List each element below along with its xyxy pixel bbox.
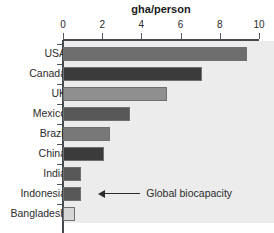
bar (63, 87, 167, 101)
bar-row: Brazil (0, 124, 274, 144)
y-tick-mark (57, 104, 62, 105)
bar (63, 107, 130, 121)
bar-row: China (0, 144, 274, 164)
category-label: China (39, 147, 66, 159)
bar (63, 167, 81, 181)
x-tick-label: 8 (217, 19, 223, 30)
x-tick-label: 4 (139, 19, 145, 30)
y-tick-mark (57, 124, 62, 125)
x-tick-mark (259, 33, 260, 39)
y-tick-mark (57, 204, 62, 205)
y-tick-mark (57, 184, 62, 185)
bar (63, 127, 110, 141)
bar (63, 207, 75, 221)
bar (63, 67, 202, 81)
bar (63, 47, 247, 61)
y-tick-mark (57, 144, 62, 145)
bar-row: UK (0, 84, 274, 104)
category-label: Mexico (33, 107, 66, 119)
bar-chart: gha/person 0246810 USACanadaUKMexicoBraz… (0, 0, 274, 233)
bar (63, 187, 81, 201)
bar-row: India (0, 164, 274, 184)
bar-row: Bangladesh (0, 204, 274, 224)
bar-row: USA (0, 44, 274, 64)
x-tick-label: 0 (60, 19, 66, 30)
bar (63, 147, 104, 161)
y-tick-mark (57, 44, 62, 45)
x-tick-label: 2 (99, 19, 105, 30)
category-label: Indonesia (20, 187, 66, 199)
annotation-leader-line (104, 193, 140, 194)
y-tick-mark (57, 64, 62, 65)
chart-title: gha/person (63, 3, 259, 15)
y-tick-mark (57, 164, 62, 165)
bar-row: Canada (0, 64, 274, 84)
bar-row: Mexico (0, 104, 274, 124)
category-label: Canada (29, 67, 66, 79)
category-label: Bangladesh (11, 207, 66, 219)
x-tick-label: 10 (253, 19, 264, 30)
annotation-label: Global biocapacity (146, 187, 232, 199)
x-tick-label: 6 (178, 19, 184, 30)
y-tick-mark (57, 84, 62, 85)
